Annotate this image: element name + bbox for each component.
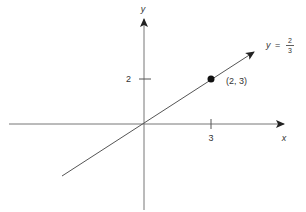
y-axis-label: y [140, 4, 146, 14]
equation-denominator: 3 [288, 47, 292, 54]
equation-equals: = [275, 40, 280, 50]
graph-line [62, 52, 254, 176]
equation-lhs: y [265, 40, 271, 50]
line-equation-label: y = 2 3 [265, 37, 294, 54]
x-tick-label: 3 [208, 133, 213, 143]
point-label: (2, 3) [226, 76, 247, 86]
equation-numerator: 2 [288, 37, 292, 44]
point-marker [208, 76, 215, 83]
y-tick-label: 2 [126, 74, 131, 84]
coordinate-plane: y x 3 2 (2, 3) y = 2 3 [0, 0, 306, 212]
x-axis-label: x [281, 133, 287, 143]
